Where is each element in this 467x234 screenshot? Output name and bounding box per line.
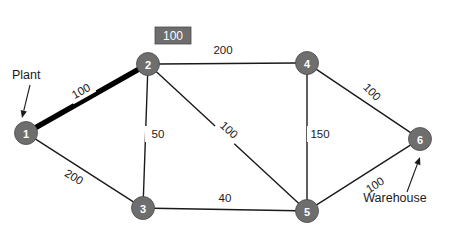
edge-3-5 bbox=[153, 208, 297, 211]
edge-weight-label: 150 bbox=[310, 128, 329, 140]
edge-4-6 bbox=[315, 69, 411, 134]
node-label-3: 3 bbox=[140, 203, 146, 215]
total-cost-badge-value: 100 bbox=[163, 29, 183, 43]
annotation-label-plant: Plant bbox=[12, 68, 41, 82]
node-3[interactable]: 3 bbox=[132, 197, 155, 220]
edge-1-3 bbox=[34, 138, 134, 202]
network-diagram: 1002005020010040150100100 PlantWarehouse… bbox=[0, 0, 467, 234]
node-2[interactable]: 2 bbox=[137, 53, 160, 76]
annotation-plant: Plant bbox=[12, 68, 41, 118]
annotation-arrow-line-warehouse bbox=[407, 164, 417, 192]
node-6[interactable]: 6 bbox=[409, 128, 432, 151]
edge-weight-2-4: 200 bbox=[210, 42, 236, 58]
network-diagram-canvas: 1002005020010040150100100 PlantWarehouse… bbox=[0, 0, 467, 234]
edge-weight-label: 40 bbox=[219, 192, 232, 204]
edge-weight-1-3: 200 bbox=[59, 164, 90, 191]
annotation-arrow-head-warehouse bbox=[414, 157, 420, 165]
edge-weight-2-3: 50 bbox=[145, 126, 171, 142]
node-1[interactable]: 1 bbox=[15, 122, 38, 145]
node-label-1: 1 bbox=[23, 128, 29, 140]
node-label-2: 2 bbox=[145, 59, 151, 71]
node-label-6: 6 bbox=[417, 134, 423, 146]
annotation-arrow-head-plant bbox=[21, 110, 27, 118]
edge-weight-4-5: 150 bbox=[307, 126, 333, 142]
edge-weight-label: 50 bbox=[152, 128, 165, 140]
node-5[interactable]: 5 bbox=[296, 200, 319, 223]
node-label-5: 5 bbox=[304, 206, 310, 218]
badge-layer: 100 bbox=[155, 27, 191, 44]
edge-weight-3-5: 40 bbox=[212, 190, 238, 206]
annotation-arrow-line-plant bbox=[24, 85, 30, 111]
edge-labels-layer: 1002005020010040150100100 bbox=[59, 42, 391, 206]
edge-weight-4-6: 100 bbox=[357, 77, 387, 107]
total-cost-badge: 100 bbox=[155, 27, 191, 44]
annotation-label-warehouse: Warehouse bbox=[363, 191, 427, 205]
edge-weight-2-5: 100 bbox=[214, 115, 244, 144]
edge-1-2 bbox=[35, 69, 140, 128]
edge-2-4 bbox=[158, 63, 297, 64]
edge-weight-label: 200 bbox=[213, 44, 232, 56]
node-4[interactable]: 4 bbox=[296, 52, 319, 75]
node-label-4: 4 bbox=[304, 58, 311, 70]
